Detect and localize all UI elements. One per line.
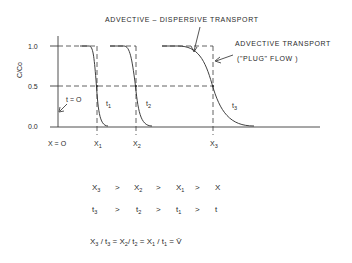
- t0-label: t = O: [66, 96, 82, 103]
- y-axis: [50, 36, 58, 127]
- transport-diagram: ADVECTIVE – DISPERSIVE TRANSPORT ADVECTI…: [0, 0, 352, 263]
- ytick-05: 0.5: [28, 83, 38, 90]
- dispersive-transport-label: ADVECTIVE – DISPERSIVE TRANSPORT: [105, 16, 259, 23]
- equation-t-order: t3 > t2 > t1 > t: [92, 205, 218, 215]
- svg-text:X3: X3: [92, 183, 100, 193]
- t0-arrow-icon: [59, 104, 67, 112]
- y-axis-label: C/Co: [16, 62, 23, 78]
- dispersive-arrow-icon: [191, 27, 200, 52]
- svg-text:>: >: [156, 183, 161, 192]
- t2-label: t2: [146, 100, 151, 109]
- xtick-3: X3: [210, 140, 218, 149]
- ytick-1: 1.0: [28, 43, 38, 50]
- svg-text:>: >: [156, 205, 161, 214]
- svg-text:t: t: [215, 205, 218, 214]
- equation-x-order: X3 > X2 > X1 > X: [92, 183, 221, 193]
- reference-lines: [58, 46, 213, 135]
- xtick-0: X = O: [48, 140, 67, 147]
- plug-flow-label: ("PLUG" FLOW ): [237, 55, 298, 63]
- svg-text:X: X: [215, 183, 221, 192]
- svg-text:X2: X2: [134, 183, 142, 193]
- t1-label: t1: [106, 100, 111, 109]
- svg-text:>: >: [195, 205, 200, 214]
- svg-text:>: >: [115, 205, 120, 214]
- svg-text:>: >: [115, 183, 120, 192]
- equation-velocity: X3 / t3 = X2/ t2 = X1 / t1 = V̄: [90, 237, 182, 247]
- xtick-1: X1: [94, 140, 102, 149]
- svg-text:t2: t2: [136, 205, 141, 215]
- advective-arrow-icon: [215, 55, 233, 63]
- svg-text:>: >: [195, 183, 200, 192]
- svg-text:t3: t3: [92, 205, 97, 215]
- xtick-2: X2: [133, 140, 141, 149]
- t3-label: t3: [232, 102, 237, 111]
- advective-transport-label: ADVECTIVE TRANSPORT: [235, 40, 331, 47]
- svg-text:X1: X1: [176, 183, 184, 193]
- svg-text:t1: t1: [176, 205, 181, 215]
- ytick-0: 0.0: [28, 123, 38, 130]
- svg-text:X3 / t3 = X2/ t2 = X1 / t1 = V: X3 / t3 = X2/ t2 = X1 / t1 = V̄: [90, 237, 182, 247]
